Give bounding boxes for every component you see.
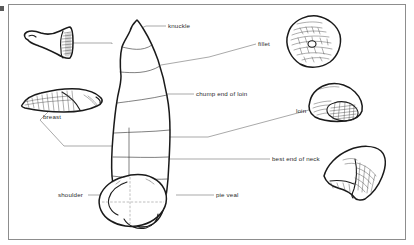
label-loin: loin <box>296 108 306 114</box>
breast-cut-illustration <box>22 89 103 112</box>
leader-loin <box>163 110 309 137</box>
diagram-artwork: .ink { fill:none; stroke:#1a1a1a; stroke… <box>0 0 414 245</box>
loin-cut-illustration <box>309 83 362 121</box>
diagram-page: .ink { fill:none; stroke:#1a1a1a; stroke… <box>0 0 414 245</box>
label-pie-veal: pie veal <box>216 192 239 198</box>
knuckle-cut-illustration <box>24 27 73 58</box>
label-knuckle: knuckle <box>168 23 190 29</box>
label-shoulder: shoulder <box>58 192 83 198</box>
label-breast: breast <box>43 114 61 120</box>
leader-knuckle-cut <box>71 43 112 44</box>
label-fillet: fillet <box>258 41 270 47</box>
label-best-end-of-neck: best end of neck <box>272 156 320 162</box>
carcass-illustration <box>98 20 170 229</box>
label-chump-end-of-loin: chump end of loin <box>196 91 247 97</box>
best-end-neck-cut-illustration <box>324 146 386 200</box>
fillet-cut-illustration <box>287 16 341 67</box>
